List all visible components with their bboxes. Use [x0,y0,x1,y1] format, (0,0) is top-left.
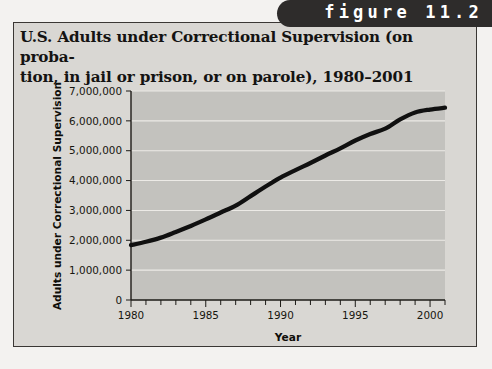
figure-title-line-1: U.S. Adults under Correctional Supervisi… [20,27,472,67]
figure-title-line-2: tion, in jail or prison, or on parole), … [20,67,472,87]
figure-tab-label: figure 11.2 [324,2,483,22]
figure-title: U.S. Adults under Correctional Supervisi… [20,27,472,88]
figure-tab: figure 11.2 [277,0,492,27]
